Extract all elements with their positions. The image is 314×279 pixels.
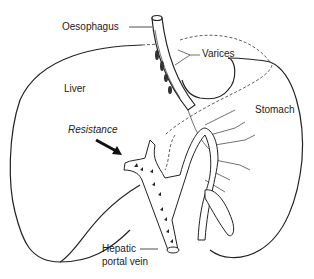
label-oesophagus: Oesophagus	[62, 21, 119, 32]
hepatic-portal-vein	[124, 128, 234, 253]
label-resistance: Resistance	[68, 124, 118, 135]
splenic-loop	[205, 190, 234, 236]
label-portal-vein-2: portal vein	[102, 256, 148, 267]
liver-outline	[10, 45, 142, 262]
label-varices: Varices	[202, 48, 235, 59]
resistance-arrow-icon	[96, 140, 122, 155]
label-stomach: Stomach	[255, 104, 294, 115]
varix	[160, 61, 164, 71]
label-portal-vein-1: Hepatic	[102, 243, 136, 254]
varices-leader	[175, 50, 200, 65]
label-liver: Liver	[64, 83, 86, 94]
oesophagus	[152, 16, 195, 111]
portal-hypertension-diagram: Oesophagus Varices Liver Stomach Resista…	[0, 0, 314, 279]
gastric-veins	[188, 110, 255, 192]
varix	[168, 86, 172, 94]
stomach-fundus-edge	[182, 58, 235, 99]
varix	[155, 50, 159, 60]
vessel-dashed	[165, 135, 175, 170]
